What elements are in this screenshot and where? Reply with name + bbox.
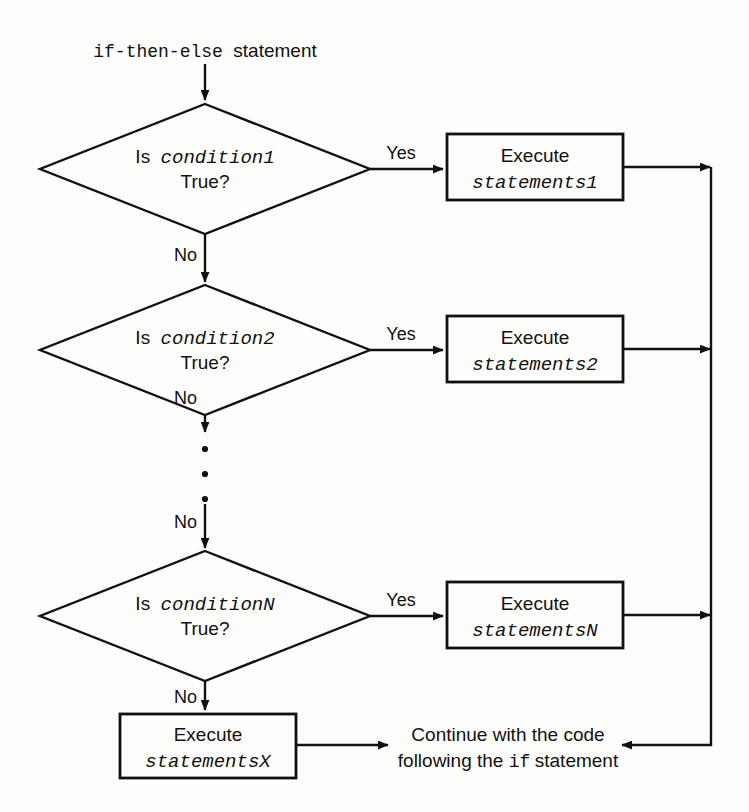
- continue-text-after: statement: [535, 750, 619, 771]
- process-statements2-line1: Execute: [501, 327, 570, 348]
- process-statementsX-line2: statementsX: [145, 751, 272, 773]
- diagram-title: if-then-else statement: [93, 40, 317, 62]
- process-statementsN-line2: statementsN: [472, 620, 598, 642]
- process-statementsN-line1: Execute: [501, 593, 570, 614]
- edge-label-yes-N: Yes: [386, 590, 415, 610]
- decision-conditionN-variable: conditionN: [161, 594, 276, 616]
- process-statements2-line2: statements2: [472, 354, 597, 376]
- connector-merge-bus: [622, 167, 711, 745]
- edge-label-no-ellipsis: No: [174, 512, 197, 532]
- flowchart-svg: if-then-else statement Is condition1 Tru…: [0, 0, 749, 812]
- continue-text-line2: following the if statement: [398, 750, 619, 772]
- edge-label-yes-1: Yes: [386, 143, 415, 163]
- continue-text-keyword: if: [509, 752, 531, 772]
- decision-conditionN-prefix: Is: [135, 593, 150, 614]
- process-statements1-line2: statements1: [472, 172, 597, 194]
- decision-conditionN[interactable]: [40, 551, 370, 681]
- flowchart-canvas: if-then-else statement Is condition1 Tru…: [0, 0, 749, 812]
- decision-condition1-variable: condition1: [161, 147, 275, 169]
- edge-label-no-2: No: [174, 388, 197, 408]
- process-statementsX-line1: Execute: [174, 724, 243, 745]
- decision-conditionN-line2: True?: [181, 618, 230, 639]
- continue-text-line1: Continue with the code: [411, 724, 604, 745]
- decision-condition2[interactable]: [40, 285, 370, 415]
- decision-condition2-variable: condition2: [161, 328, 275, 350]
- edge-label-no-N: No: [174, 687, 197, 707]
- vertical-ellipsis-icon: [202, 446, 208, 502]
- decision-condition2-line2: True?: [181, 352, 230, 373]
- decision-condition1-prefix: Is: [135, 146, 150, 167]
- decision-condition1-line2: True?: [181, 171, 230, 192]
- diagram-title-mono: if-then-else: [93, 42, 223, 62]
- decision-condition2-prefix: Is: [135, 327, 150, 348]
- edge-label-yes-2: Yes: [386, 324, 415, 344]
- decision-condition1[interactable]: [40, 104, 370, 234]
- process-statements1-line1: Execute: [501, 145, 570, 166]
- edge-label-no-1: No: [174, 245, 197, 265]
- diagram-title-sans: statement: [233, 40, 317, 61]
- continue-text-before: following the: [398, 750, 509, 771]
